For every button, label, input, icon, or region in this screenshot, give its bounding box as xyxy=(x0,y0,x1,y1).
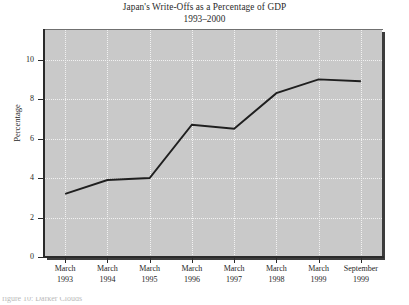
x-tick-mark xyxy=(192,258,193,263)
x-tick-mark xyxy=(319,258,320,263)
x-tick-mark xyxy=(361,258,362,263)
chart-figure: Japan's Write-Offs as a Percentage of GD… xyxy=(0,0,409,305)
chart-subtitle: 1993–2000 xyxy=(0,13,409,25)
x-tick-label: September1999 xyxy=(333,264,389,285)
y-tick-label: 0 xyxy=(8,253,34,261)
y-tick-label: 4 xyxy=(8,174,34,182)
y-axis-title: Percentage xyxy=(12,78,22,168)
page-title: Japan's Write-Offs as a Percentage of GD… xyxy=(0,1,409,13)
y-tick-mark xyxy=(38,218,44,219)
y-tick-mark xyxy=(38,60,44,61)
figure-caption: figure 10: Darker Clouds xyxy=(2,297,82,303)
y-axis-line xyxy=(43,29,45,258)
y-tick-mark xyxy=(38,139,44,140)
title-block: Japan's Write-Offs as a Percentage of GD… xyxy=(0,1,409,25)
x-tick-mark xyxy=(107,258,108,263)
x-tick-mark xyxy=(65,258,66,263)
y-tick-label: 2 xyxy=(8,214,34,222)
x-tick-mark xyxy=(276,258,277,263)
y-tick-mark xyxy=(38,99,44,100)
x-tick-mark xyxy=(234,258,235,263)
data-series-line xyxy=(44,30,382,257)
y-tick-mark xyxy=(38,178,44,179)
caption-strip: figure 10: Darker Clouds xyxy=(0,297,409,305)
y-tick-label: 10 xyxy=(8,56,34,64)
y-tick-mark xyxy=(38,257,44,258)
x-tick-mark xyxy=(150,258,151,263)
x-axis-line xyxy=(43,256,384,258)
